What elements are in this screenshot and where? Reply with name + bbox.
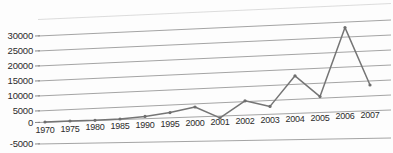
ytick-label-25000: 25000 xyxy=(8,45,33,56)
xtick-label-1990: 1990 xyxy=(135,120,154,130)
ytick-label-10000: 10000 xyxy=(8,90,33,101)
data-point xyxy=(368,83,371,86)
data-point xyxy=(243,99,246,102)
data-point xyxy=(143,115,146,118)
chart-canvas: 30000 25000 20000 15000 10000 5000 0 -50… xyxy=(0,0,393,153)
xtick-label-2007: 2007 xyxy=(360,110,379,120)
xtick-label-1980: 1980 xyxy=(85,122,104,132)
xtick-label-2002: 2002 xyxy=(235,116,254,126)
data-point xyxy=(168,111,171,114)
ytick-label-5000: 5000 xyxy=(13,105,33,116)
xtick-label-2004: 2004 xyxy=(285,114,304,124)
data-point xyxy=(43,120,46,123)
xtick-label-2000: 2000 xyxy=(185,118,204,128)
line-chart-figure: 30000 25000 20000 15000 10000 5000 0 -50… xyxy=(0,0,393,153)
data-point xyxy=(68,119,71,122)
ytick-label-minus5000: -5000 xyxy=(10,138,33,149)
ytick-label-0: 0 xyxy=(28,117,33,128)
xtick-label-2005: 2005 xyxy=(310,113,329,123)
xtick-label-2006: 2006 xyxy=(335,111,354,121)
xtick-label-2001: 2001 xyxy=(210,117,229,127)
data-point xyxy=(118,117,121,120)
xtick-label-2003: 2003 xyxy=(260,115,279,125)
xtick-label-1995: 1995 xyxy=(160,119,179,129)
data-point xyxy=(343,26,346,29)
data-point xyxy=(268,105,271,108)
ytick-label-15000: 15000 xyxy=(8,75,33,86)
ytick-label-30000: 30000 xyxy=(8,30,33,41)
xtick-label-1985: 1985 xyxy=(110,121,129,131)
data-point xyxy=(293,74,296,77)
ytick-label-20000: 20000 xyxy=(8,60,33,71)
xtick-label-1975: 1975 xyxy=(60,124,79,134)
xtick-label-1970: 1970 xyxy=(35,125,54,135)
data-point xyxy=(318,95,321,98)
data-point xyxy=(193,105,196,108)
